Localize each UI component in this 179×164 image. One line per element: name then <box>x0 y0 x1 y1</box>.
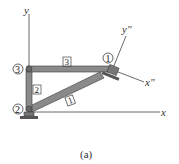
member-2 <box>26 69 32 111</box>
member-label-2: 2 <box>33 85 41 95</box>
y-local-axis <box>113 36 126 68</box>
y-axis-label: y <box>23 4 29 16</box>
svg-text:3: 3 <box>65 57 70 67</box>
pin-support-node-2 <box>20 112 38 119</box>
member-3 <box>27 66 113 72</box>
svg-text:1: 1 <box>106 53 111 64</box>
node-2-pin <box>26 106 32 112</box>
node-label-1: 1 <box>103 53 113 64</box>
member-label-1: 1 <box>65 94 76 106</box>
svg-text:3: 3 <box>15 64 20 75</box>
node-3-pin <box>26 66 32 72</box>
x-local-axis-label: x" <box>144 76 155 88</box>
figure-caption: (a) <box>80 148 93 161</box>
member-label-3: 3 <box>63 57 71 67</box>
y-local-axis-label: y" <box>121 23 132 35</box>
node-label-3: 3 <box>13 64 23 75</box>
node-label-2: 2 <box>13 104 23 115</box>
truss-diagram: y x y" x" 3 2 1 3 2 <box>0 0 179 164</box>
x-axis-label: x <box>160 106 166 118</box>
svg-text:2: 2 <box>15 104 20 115</box>
svg-text:2: 2 <box>35 85 40 95</box>
